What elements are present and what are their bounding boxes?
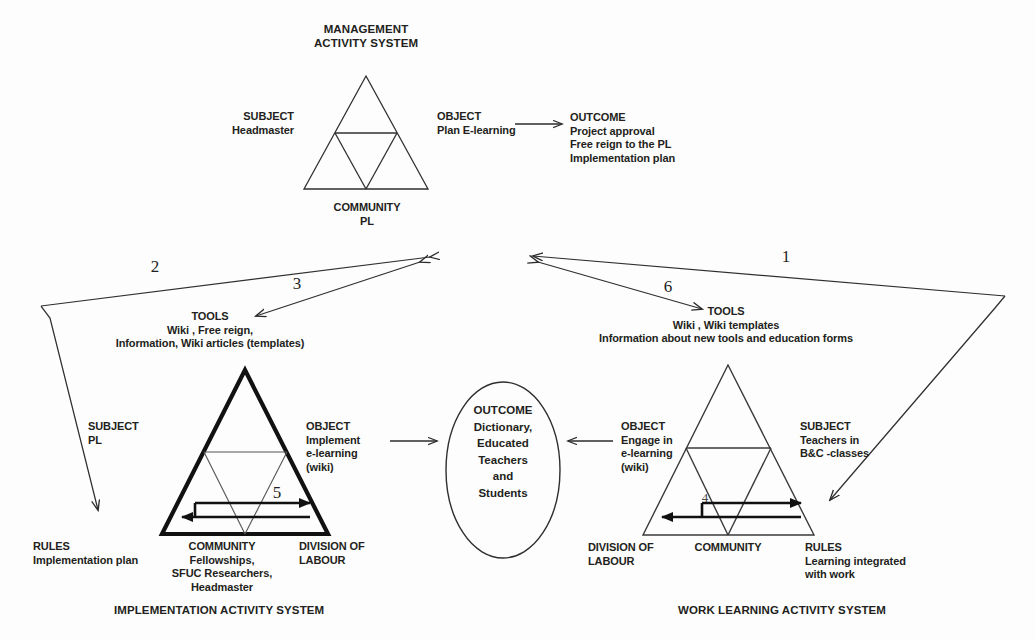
work-learning-subject-line1: Teachers in	[800, 434, 859, 446]
implementation-rules-value: Implementation plan	[33, 554, 138, 566]
work-learning-division-line1: DIVISION OF	[588, 541, 654, 553]
work-learning-object-label: OBJECT	[621, 420, 665, 432]
implementation-triangle	[162, 370, 328, 534]
work-learning-rules-label: RULES	[805, 541, 842, 553]
implementation-object-line1: Implement	[306, 434, 360, 446]
contradiction-number-6: 6	[664, 277, 673, 297]
management-outcome-line1: Project approval	[570, 125, 655, 137]
center-outcome-line1: Dictionary,	[474, 421, 533, 433]
management-object-value: Plan E-learning	[437, 124, 516, 136]
implementation-tools-line2: Information, Wiki articles (templates)	[116, 337, 305, 349]
work-learning-object: OBJECTEngage ine-learning(wiki)	[621, 420, 673, 474]
implementation-division-of-labour: DIVISION OFLABOUR	[299, 540, 365, 567]
center-outcome-line4: and	[493, 470, 513, 482]
management-subject: SUBJECTHeadmaster	[232, 110, 294, 137]
contradiction-number-3: 3	[293, 274, 302, 294]
contradiction-number-1: 1	[782, 247, 791, 267]
implementation-subject: SUBJECTPL	[88, 420, 139, 447]
management-triangle	[304, 76, 428, 189]
management-outcome: OUTCOMEProject approvalFree reign to the…	[570, 111, 675, 165]
management-outcome-line2: Free reign to the PL	[570, 138, 671, 150]
work-learning-rules: RULESLearning integratedwith work	[805, 541, 906, 582]
work-learning-tools: TOOLSWiki , Wiki templatesInformation ab…	[599, 305, 853, 346]
contradiction-number-2: 2	[151, 257, 160, 277]
implementation-community-line2: SFUC Researchers,	[172, 567, 272, 579]
link-2	[41, 257, 430, 510]
implementation-community-line1: Fellowships,	[190, 554, 255, 566]
center-outcome-label: OUTCOME	[474, 404, 533, 416]
work-learning-subject: SUBJECTTeachers inB&C -classes	[800, 420, 869, 461]
work-learning-object-line2: e-learning	[621, 447, 673, 459]
implementation-division-line1: DIVISION OF	[299, 540, 365, 552]
diagram-canvas: MANAGEMENTACTIVITY SYSTEM SUBJECTHeadmas…	[0, 0, 1035, 640]
implementation-rules-label: RULES	[33, 540, 70, 552]
implementation-division-line2: LABOUR	[299, 554, 345, 566]
work-learning-rules-line1: Learning integrated	[805, 555, 906, 567]
implementation-community: COMMUNITYFellowships,SFUC Researchers,He…	[172, 540, 272, 594]
implementation-rules: RULESImplementation plan	[33, 540, 138, 567]
work-learning-tools-label: TOOLS	[707, 305, 744, 317]
implementation-system-caption: IMPLEMENTATION ACTIVITY SYSTEM	[114, 603, 324, 617]
management-object-label: OBJECT	[437, 110, 481, 122]
work-learning-subject-label: SUBJECT	[800, 420, 851, 432]
contradiction-number-5: 5	[273, 483, 282, 503]
work-learning-division-of-labour: DIVISION OFLABOUR	[588, 541, 654, 568]
work-learning-subject-line2: B&C -classes	[800, 447, 869, 459]
management-community: COMMUNITYPL	[334, 201, 401, 228]
implementation-subject-value: PL	[88, 434, 102, 446]
management-subject-value: Headmaster	[232, 124, 294, 136]
implementation-object-label: OBJECT	[306, 420, 350, 432]
management-community-label: COMMUNITY	[334, 201, 401, 213]
center-outcome-line5: Students	[478, 487, 527, 499]
management-title-line1: MANAGEMENT	[324, 23, 409, 35]
center-outcome-text: OUTCOMEDictionary,EducatedTeachersandStu…	[443, 402, 563, 501]
management-community-value: PL	[360, 215, 374, 227]
link-3	[256, 262, 420, 316]
implementation-object: OBJECTImplemente-learning(wiki)	[306, 420, 360, 474]
management-system-title: MANAGEMENTACTIVITY SYSTEM	[314, 22, 418, 50]
center-outcome-line2: Educated	[477, 437, 529, 449]
work-learning-rules-line2: with work	[805, 568, 855, 580]
implementation-tools-label: TOOLS	[191, 310, 228, 322]
work-learning-community: COMMUNITY	[695, 541, 762, 555]
management-outcome-label: OUTCOME	[570, 111, 626, 123]
implementation-subject-label: SUBJECT	[88, 420, 139, 432]
link-1	[533, 256, 1005, 500]
implementation-object-line3: (wiki)	[306, 461, 334, 473]
implementation-tools: TOOLSWiki , Free reign,Information, Wiki…	[116, 310, 305, 351]
work-learning-tools-line2: Information about new tools and educatio…	[599, 332, 853, 344]
contradiction-number-4: 4	[702, 490, 709, 506]
work-learning-division-line2: LABOUR	[588, 555, 634, 567]
arrow-pair-work-learning	[662, 503, 801, 517]
implementation-community-label: COMMUNITY	[189, 540, 256, 552]
implementation-community-line3: Headmaster	[191, 581, 253, 593]
link-6	[538, 262, 702, 309]
management-title-line2: ACTIVITY SYSTEM	[314, 37, 418, 49]
arrow-pair-implementation	[182, 503, 310, 517]
management-object: OBJECTPlan E-learning	[437, 110, 516, 137]
work-learning-object-line3: (wiki)	[621, 461, 649, 473]
management-subject-label: SUBJECT	[243, 110, 294, 122]
work-learning-tools-line1: Wiki , Wiki templates	[673, 319, 780, 331]
implementation-object-line2: e-learning	[306, 447, 358, 459]
implementation-tools-line1: Wiki , Free reign,	[167, 324, 253, 336]
work-learning-object-line1: Engage in	[621, 434, 673, 446]
management-outcome-line3: Implementation plan	[570, 152, 675, 164]
center-outcome-line3: Teachers	[478, 454, 528, 466]
work-learning-system-caption: WORK LEARNING ACTIVITY SYSTEM	[678, 603, 886, 617]
figure-caption-ghost	[60, 621, 63, 633]
